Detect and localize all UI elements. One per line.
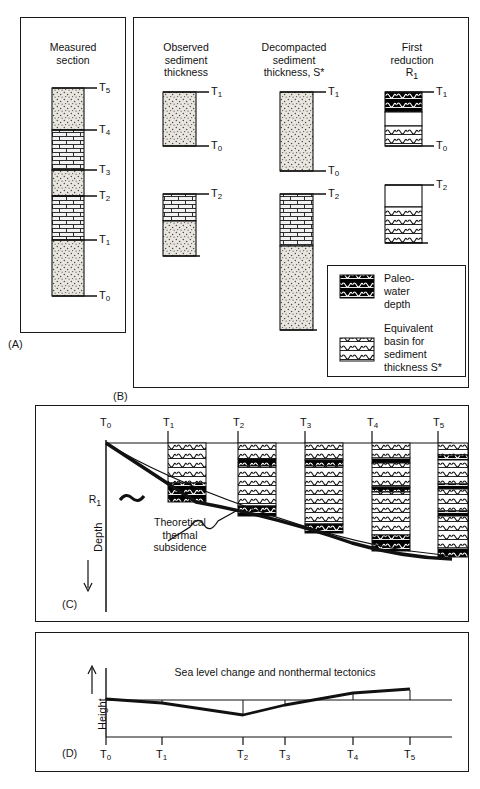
t2-text: T2 [99,189,110,201]
panel-d-label-t1: T1 [156,748,167,760]
panel-b-observed-t1: T1 [211,85,222,97]
dec-t1-text: T1 [328,85,339,97]
panel-b-decomp-t2: T2 [328,187,339,199]
legend-eb-l1: Equivalent [384,322,466,335]
panel-c [35,405,469,622]
panel-a-title: Measured section [22,41,124,66]
obs-t2-text: T2 [211,187,222,199]
panel-a-label-t5: T5 [99,81,110,93]
panel-a-label-t0: T0 [99,289,110,301]
c-t2-text: T2 [233,416,244,428]
panel-c-label-t3: T3 [300,416,311,428]
legend-pw-l1: Paleo- [384,272,462,285]
d-t0-text: T0 [100,748,111,760]
panel-b-col3-title: First reduction R1 [370,41,454,83]
c-t4-text: T4 [367,416,378,428]
r1-t2-text: T2 [436,178,447,190]
legend-pw-l3: depth [384,298,462,311]
decompacted-title-l3: thickness, S* [248,66,340,79]
c-t5-text: T5 [433,416,444,428]
figure-root: Measured section T5 T4 T3 T2 T1 T0 (A) [0,0,480,789]
legend-equivalent-basin-text: Equivalent basin for sediment thickness … [384,322,466,374]
legend-eb-l2: basin for [384,335,466,348]
legend-eb-l4: thickness S* [384,361,466,374]
t5-text: T5 [99,81,110,93]
t4-text: T4 [99,123,110,135]
decompacted-title-l1: Decompacted [248,41,340,54]
theo-l2: thermal [124,529,236,542]
panel-a-label-t2: T2 [99,189,110,201]
dec-t0-text: T0 [328,164,339,176]
panel-a-label-t4: T4 [99,123,110,135]
panel-d-label-t4: T4 [347,748,358,760]
panel-d-label-t5: T5 [404,748,415,760]
panel-b-decomp-t0: T0 [328,164,339,176]
panel-a-label-t1: T1 [99,233,110,245]
panel-b-r1-t1: T1 [436,85,447,97]
panel-b-decomp-t1: T1 [328,85,339,97]
t0-text: T0 [99,289,110,301]
d-t1-text: T1 [156,748,167,760]
panel-c-label-t5: T5 [433,416,444,428]
panel-d-label: (D) [62,747,77,759]
panel-b-col1-title: Observed sediment thickness [147,41,225,79]
c-t1-text: T1 [163,416,174,428]
r1-t0-text: T0 [436,139,447,151]
legend-eb-l3: sediment [384,348,466,361]
panel-b-label: (B) [113,390,128,402]
panel-b-r1-t0: T0 [436,139,447,151]
panel-b-observed-t0: T0 [211,139,222,151]
panel-c-label-t2: T2 [233,416,244,428]
obs-t0-text: T0 [211,139,222,151]
t3-text: T3 [99,163,110,175]
c-t0-text: T0 [100,416,111,428]
theo-l3: subsidence [124,541,236,554]
panel-b-r1-t2: T2 [436,178,447,190]
panel-c-label-t0: T0 [100,416,111,428]
decompacted-title-l2: sediment [248,54,340,67]
theo-l1: Theoretical [124,516,236,529]
observed-title-l1: Observed [147,41,225,54]
reduction-title-l2: reduction [370,54,454,67]
c-t3-text: T3 [300,416,311,428]
panel-d-label-t3: T3 [279,748,290,760]
reduction-title-l1: First [370,41,454,54]
panel-c-label: (C) [62,598,77,610]
panel-c-label-t1: T1 [163,416,174,428]
theoretical-annotation: Theoretical thermal subsidence [124,516,236,554]
panel-c-label-t4: T4 [367,416,378,428]
obs-t1-text: T1 [211,85,222,97]
d-t3-text: T3 [279,748,290,760]
legend-pw-l2: water [384,285,462,298]
panel-d-height-label: Height [96,698,108,730]
panel-a-label-t3: T3 [99,163,110,175]
r1-annotation: R1 [78,493,112,510]
panel-b-col2-title: Decompacted sediment thickness, S* [248,41,340,79]
d-t2-text: T2 [237,748,248,760]
panel-b-observed-t2: T2 [211,187,222,199]
t1-text: T1 [99,233,110,245]
panel-d-label-t0: T0 [100,748,111,760]
d-t5-text: T5 [404,748,415,760]
panel-d-title: Sea level change and nonthermal tectonic… [150,666,400,679]
panel-a-title-line2: section [22,54,124,67]
panel-d-label-t2: T2 [237,748,248,760]
panel-a-title-line1: Measured [22,41,124,54]
observed-title-l2: sediment [147,54,225,67]
panel-a-label: (A) [8,338,23,350]
d-t4-text: T4 [347,748,358,760]
panel-c-depth-label: Depth [92,523,104,552]
r1-t1-text: T1 [436,85,447,97]
legend-paleo-water-text: Paleo- water depth [384,272,462,311]
observed-title-l3: thickness [147,66,225,79]
reduction-title-l3: R1 [370,66,454,83]
dec-t2-text: T2 [328,187,339,199]
